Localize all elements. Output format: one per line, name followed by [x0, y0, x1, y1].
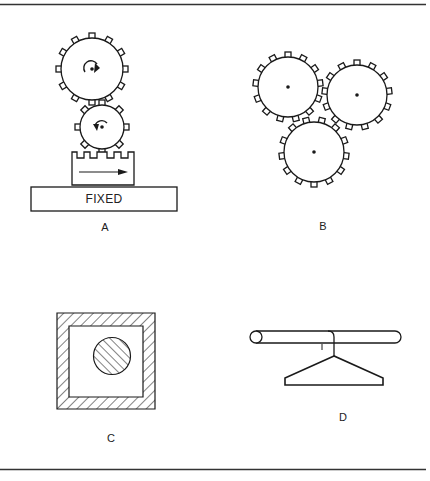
mechanism-diagram — [0, 0, 430, 481]
gear-bottom — [279, 117, 349, 187]
cylindrical-rod — [256, 331, 401, 343]
panel-label-b: B — [319, 220, 326, 232]
panel-label-c: C — [107, 432, 115, 444]
hanger-body — [285, 356, 383, 385]
gear-top-left — [253, 52, 323, 122]
gear-axle — [312, 150, 316, 154]
panel-b — [253, 52, 392, 187]
panel-d — [250, 331, 401, 385]
rod-end — [250, 331, 262, 343]
gear-axle — [355, 93, 359, 97]
panel-c — [57, 313, 155, 409]
gear-top-right — [322, 60, 392, 130]
panel-label-a: A — [101, 221, 108, 233]
fixed-base-label: FIXED — [86, 192, 123, 206]
panel-label-d: D — [339, 411, 347, 423]
hatched-circle — [94, 338, 131, 375]
panel-a — [31, 33, 177, 211]
toothed-rack — [72, 152, 134, 185]
gear-axle — [286, 85, 290, 89]
